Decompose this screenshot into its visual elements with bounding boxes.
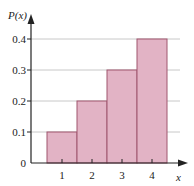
y-tick-labels: 00.10.20.30.4	[12, 33, 26, 169]
bar-4	[137, 39, 167, 163]
y-tick-label: 0.1	[12, 126, 26, 138]
x-tick-label: 3	[119, 169, 125, 181]
y-tick-label: 0.3	[12, 64, 26, 76]
y-tick-label: 0.2	[12, 95, 26, 107]
y-tick-label: 0.4	[12, 33, 26, 45]
x-axis-title: x	[175, 171, 181, 183]
bar-2	[77, 101, 107, 163]
x-tick-label: 2	[89, 169, 95, 181]
x-tick-label: 1	[59, 169, 65, 181]
x-axis-arrow-icon	[178, 160, 188, 167]
bar-3	[107, 70, 137, 163]
y-axis-title: P(x)	[7, 9, 27, 22]
x-tick-label: 4	[149, 169, 155, 181]
bar-1	[47, 132, 77, 163]
y-axis-arrow-icon	[28, 14, 35, 24]
y-tick-label: 0	[21, 157, 27, 169]
probability-histogram: 00.10.20.30.4 1234 P(x) x	[0, 0, 194, 186]
x-tick-labels: 1234	[59, 169, 155, 181]
